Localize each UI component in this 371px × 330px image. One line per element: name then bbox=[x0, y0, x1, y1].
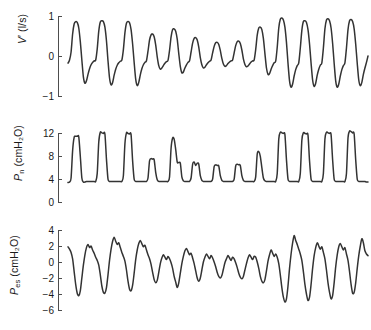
axis-label-esophageal-pressure: Pes (cmH₂O) bbox=[8, 210, 24, 320]
ytick-label: 0 bbox=[48, 197, 54, 208]
ytick-label: 8 bbox=[48, 151, 54, 162]
ytick-label: −1 bbox=[43, 91, 54, 102]
ytick-label: −4 bbox=[43, 289, 54, 300]
y-axis-spine-mask-pressure bbox=[58, 133, 62, 202]
ytick-label: 2 bbox=[48, 241, 54, 252]
ytick-label: −6 bbox=[43, 305, 54, 316]
y-axis-spine-airflow bbox=[58, 16, 62, 96]
airflow-plot bbox=[0, 0, 371, 110]
esophageal-pressure-plot bbox=[0, 220, 371, 330]
ytick-labels-esophageal-pressure: 420−2−4−6 bbox=[28, 220, 54, 330]
airflow-trace bbox=[68, 18, 368, 87]
ytick-label: 4 bbox=[48, 225, 54, 236]
ytick-labels-airflow: 10−1 bbox=[28, 0, 54, 110]
ytick-label: 12 bbox=[43, 128, 54, 139]
ytick-labels-mask-pressure: 12840 bbox=[28, 110, 54, 220]
panel-mask-pressure: Pn (cmH₂O) 12840 bbox=[0, 110, 371, 220]
y-axis-spine-esophageal-pressure bbox=[58, 230, 62, 310]
mask-pressure-plot bbox=[0, 110, 371, 220]
panel-airflow: V′ (l/s) 10−1 bbox=[0, 0, 371, 110]
mask-pressure-trace bbox=[68, 131, 368, 183]
ytick-label: 1 bbox=[48, 11, 54, 22]
axis-label-mask-pressure: Pn (cmH₂O) bbox=[12, 98, 28, 208]
ytick-label: −2 bbox=[43, 273, 54, 284]
ytick-label: 0 bbox=[48, 51, 54, 62]
ytick-label: 4 bbox=[48, 174, 54, 185]
ytick-label: 0 bbox=[48, 257, 54, 268]
esophageal-pressure-trace bbox=[68, 236, 368, 302]
panel-esophageal-pressure: Pes (cmH₂O) 420−2−4−6 bbox=[0, 220, 371, 330]
physiological-waveform-figure: V′ (l/s) 10−1 Pn (cmH₂O) 12840 Pes (cmH₂… bbox=[0, 0, 371, 330]
